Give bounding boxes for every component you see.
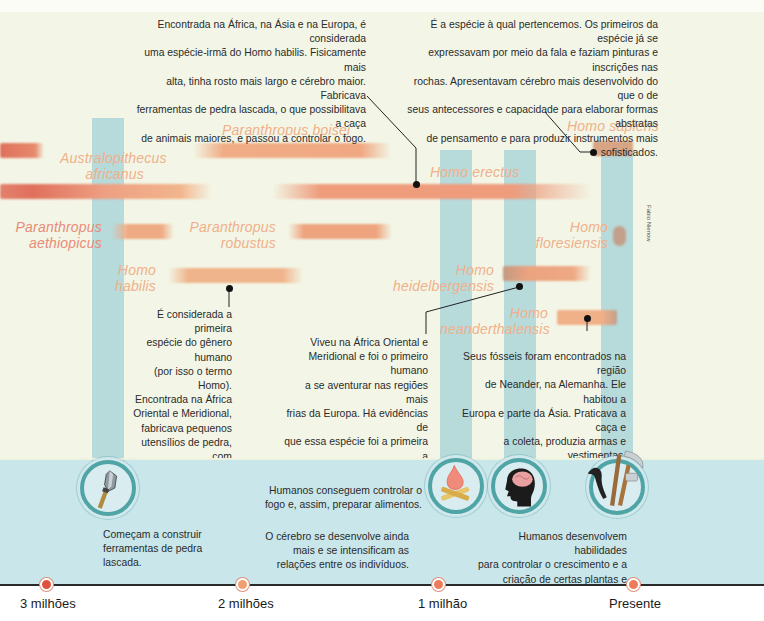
bar-homo-erectus [272, 184, 592, 199]
milestone-caption-fire: Humanos conseguem controlar o fogo e, as… [262, 484, 422, 512]
label-homo-heidelbergensis: Homo heidelbergensis [390, 262, 494, 294]
timeline-label-present: Presente [609, 596, 661, 611]
stone-tool-icon [80, 460, 136, 516]
campfire-icon [428, 458, 484, 514]
timeline-marker-3-million [40, 578, 53, 591]
timeline-label-1-million: 1 milhão [418, 596, 467, 611]
milestone-caption-stone-tools: Começam a construir ferramentas de pedra… [103, 528, 223, 571]
brain-head-icon [491, 458, 547, 514]
bar-australopithecus-africanus [0, 184, 212, 199]
label-homo-erectus: Homo erectus [430, 164, 520, 180]
pointer-dot-neanderthalensis [584, 315, 591, 322]
timeline-marker-1-million [432, 578, 445, 591]
milestone-caption-brain: O cérebro se desenvolve ainda mais e se … [262, 530, 409, 573]
bar-homo-habilis [168, 268, 303, 283]
photo-credit: Fabio Nienow [646, 205, 652, 242]
label-homo-neanderthalensis: Homo neanderthalensis [440, 305, 548, 337]
bar-homo-heidelbergensis [503, 266, 591, 281]
bar-paranthropus-robustus [288, 224, 392, 239]
label-australopithecus-africanus: Australopithecus africanus [60, 150, 166, 182]
label-homo-habilis: Homo habilis [100, 262, 156, 294]
pointer-dot-heidelbergensis [516, 283, 523, 290]
top-margin [0, 0, 764, 12]
timeline-axis-line [0, 584, 764, 586]
label-homo-floresiensis: Homo floresiensis [526, 219, 608, 251]
human-evolution-infographic: Paranthropus boisei Australopithecus afr… [0, 0, 764, 621]
label-paranthropus-robustus: Paranthropus robustus [180, 219, 276, 251]
timeline-marker-2-million [236, 578, 249, 591]
pointer-dot-erectus [413, 181, 420, 188]
timeline-marker-present [627, 578, 640, 591]
description-homo-erectus: Encontrada na África, na Ásia e na Europ… [130, 18, 366, 146]
bar-paranthropus-aethiopicus [112, 224, 174, 239]
label-paranthropus-aethiopicus: Paranthropus aethiopicus [0, 219, 102, 251]
pointer-dot-habilis [226, 285, 233, 292]
timeline-label-3-million: 3 milhões [20, 596, 76, 611]
bar-australopithecus-upper [0, 143, 44, 158]
farming-tools-icon [589, 459, 645, 515]
bar-homo-floresiensis [613, 226, 626, 246]
timeline-label-2-million: 2 milhões [218, 596, 274, 611]
description-homo-sapiens: É a espécie à qual pertencemos. Os prime… [402, 18, 658, 160]
